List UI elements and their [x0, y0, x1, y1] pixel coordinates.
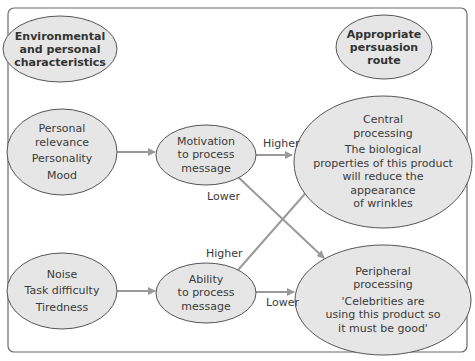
header-persuasion-route: Appropriate persuasion route	[336, 15, 432, 79]
peripheral-route-node: Peripheral processing 'Celebrities are u…	[295, 245, 471, 355]
header-right-line-2: persuasion	[350, 41, 418, 54]
factor-personality: Personality	[32, 152, 93, 166]
header-environmental-characteristics: Environmental and personal characteristi…	[3, 16, 117, 82]
header-right-line-1: Appropriate	[347, 28, 421, 41]
motivation-node: Motivation to process message	[156, 125, 256, 185]
motivation-line-2: to process	[178, 148, 235, 162]
header-left-line-2: and personal	[20, 43, 101, 56]
central-example-2: properties of this product	[313, 157, 453, 171]
factor-tiredness: Tiredness	[36, 301, 89, 315]
central-route-node: Central processing The biological proper…	[294, 96, 472, 228]
peripheral-title-2: processing	[353, 278, 412, 292]
label-motivation-higher: Higher	[263, 137, 300, 150]
motivation-line-1: Motivation	[177, 135, 235, 149]
label-ability-higher: Higher	[206, 247, 243, 260]
motivation-line-3: message	[181, 162, 230, 176]
header-left-line-3: characteristics	[14, 56, 106, 69]
central-example-4: appearance	[350, 184, 415, 198]
central-title-2: processing	[353, 127, 412, 141]
central-example-1: The biological	[345, 143, 421, 157]
factor-noise: Noise	[47, 268, 78, 282]
peripheral-title-1: Peripheral	[355, 265, 411, 279]
header-right-line-3: route	[367, 54, 401, 67]
central-title-1: Central	[363, 113, 403, 127]
ability-line-1: Ability	[189, 273, 224, 287]
ability-node: Ability to process message	[156, 263, 256, 323]
ability-factors-node: Noise Task difficulty Tiredness	[7, 253, 117, 329]
label-ability-lower: Lower	[266, 296, 299, 309]
motivation-factors-node: Personal relevance Personality Mood	[7, 109, 117, 195]
peripheral-example-2: using this product so	[325, 308, 440, 322]
peripheral-example-1: 'Celebrities are	[341, 295, 424, 309]
header-left-line-1: Environmental	[15, 30, 105, 43]
ability-line-3: message	[181, 300, 230, 314]
peripheral-example-3: it must be good'	[338, 322, 428, 336]
central-example-5: of wrinkles	[353, 197, 413, 211]
factor-task-difficulty: Task difficulty	[25, 284, 100, 298]
factor-personal: Personal	[39, 122, 86, 136]
label-motivation-lower: Lower	[207, 190, 240, 203]
central-example-3: will reduce the	[342, 170, 423, 184]
factor-relevance: relevance	[35, 136, 89, 150]
factor-mood: Mood	[47, 169, 77, 183]
ability-line-2: to process	[178, 286, 235, 300]
